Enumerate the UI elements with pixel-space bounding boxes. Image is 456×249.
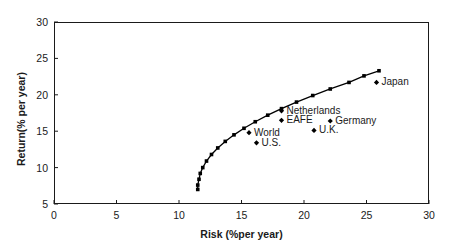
frontier-marker [362,74,366,78]
efficient-frontier-markers [196,69,381,191]
x-axis-tick-label: 25 [361,210,373,221]
x-axis-tick-label: 15 [236,210,248,221]
frontier-marker [205,159,209,163]
frontier-marker [232,133,236,137]
frontier-marker [328,87,332,91]
country-index-marker [279,118,284,123]
x-axis-tick-label: 10 [173,210,185,221]
y-axis-tick-label: 10 [24,162,48,173]
y-axis-tick-label: 15 [24,126,48,137]
country-index-marker [311,128,316,133]
x-axis-tick-label: 20 [298,210,310,221]
y-axis-tick-label: 25 [24,53,48,64]
frontier-marker [223,140,227,144]
x-axis-title: Risk (%per year) [54,228,429,240]
y-axis-tick-label: 20 [24,90,48,101]
data-point-label: U.S. [262,138,281,148]
data-point-label: Japan [382,77,409,87]
x-axis-tick-label: 0 [51,210,57,221]
frontier-marker [210,153,214,157]
frontier-marker [196,188,200,192]
country-index-marker [328,118,333,123]
x-axis-tick-label: 30 [423,210,435,221]
frontier-marker [377,69,381,73]
frontier-marker [311,94,315,98]
y-axis-tick-label: 30 [24,17,48,28]
country-index-marker [254,140,259,145]
frontier-marker [266,113,270,117]
efficient-frontier-line [198,71,379,190]
frontier-marker [198,172,202,176]
x-axis-tick-label: 5 [114,210,120,221]
country-index-marker [246,130,251,135]
x-axis-tick-marks [54,200,429,204]
frontier-marker [196,183,200,187]
chart-canvas [0,0,456,249]
frontier-marker [201,166,205,170]
frontier-marker [216,146,220,150]
data-point-label: EAFE [287,115,313,125]
y-axis-title: Return(% per year) [15,54,27,184]
y-axis-tick-marks [54,22,58,204]
frontier-marker [197,177,201,181]
efficient-frontier-chart: 051015202530 51015202530 NetherlandsEAFE… [0,0,456,249]
frontier-marker [347,81,351,85]
frontier-marker [253,120,257,124]
data-point-label: Germany [335,116,376,126]
country-index-marker [374,80,379,85]
frontier-marker [242,126,246,130]
frontier-marker [295,100,299,104]
y-axis-tick-label: 5 [24,199,48,210]
data-point-label: U.K. [319,125,338,135]
